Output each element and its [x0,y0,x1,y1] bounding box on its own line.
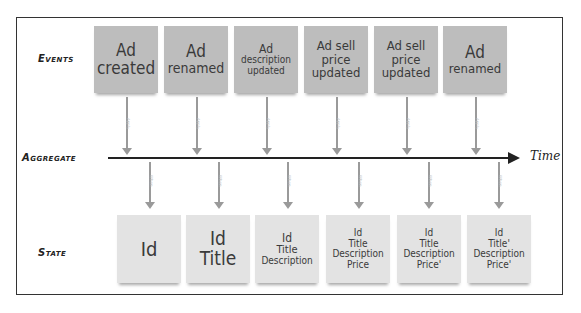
when-label: When [287,175,292,187]
event-line: updated [312,66,361,80]
event-line: Ad [116,42,136,60]
event-line: renamed [449,62,501,76]
when-label: When [358,175,363,187]
event-line: renamed [168,61,224,76]
state-line: Price' [487,260,511,271]
apply-label: Apply [336,118,341,129]
state-note-5: Id Title Description Price' [397,215,461,283]
event-line: Ad [186,43,206,61]
when-label: When [149,175,154,187]
apply-label: Apply [126,118,131,129]
event-line: price [321,53,350,67]
state-line: Id [425,228,433,239]
state-line: Description [332,249,383,260]
when-label: When [428,175,433,187]
state-note-4: Id Title Description Price [326,215,390,283]
row-label-state: State [38,247,66,258]
event-note-ad-renamed-2: Ad renamed [443,26,507,93]
apply-label: Apply [196,118,201,129]
state-line: Description [261,256,312,267]
apply-label: Apply [406,118,411,129]
row-label-events: Events [38,53,74,64]
state-note-6: Id Title' Description Price' [467,215,531,283]
event-line: price [391,53,420,67]
event-line: Ad sell [317,39,356,53]
event-note-ad-description-updated: Ad description updated [234,26,298,93]
event-note-ad-created: Ad created [94,26,158,93]
event-note-ad-sell-price-updated-1: Ad sell price updated [304,26,368,93]
event-line: updated [382,66,431,80]
state-note-1: Id [117,215,181,283]
when-label: When [498,175,503,187]
state-line: Id [141,239,158,260]
apply-label: Apply [475,118,480,129]
state-line: Title [200,249,237,269]
event-line: created [97,60,155,78]
aggregate-timeline [108,157,510,159]
event-note-ad-renamed: Ad renamed [164,26,228,93]
event-line: Ad [465,44,485,62]
event-note-ad-sell-price-updated-2: Ad sell price updated [374,26,438,93]
when-label: When [218,175,223,187]
state-line: Price' [417,260,441,271]
state-note-3: Id Title Description [255,215,319,283]
state-line: Id [210,229,226,249]
state-line: Description [403,249,454,260]
state-line: Price [347,260,369,271]
time-label: Time [530,149,560,163]
state-line: Id [495,228,503,239]
row-label-aggregate: Aggregate [22,152,76,163]
apply-label: Apply [266,118,271,129]
timeline-arrowhead-icon [508,152,520,164]
event-line: updated [247,66,284,77]
state-note-2: Id Title [186,215,250,283]
state-line: Description [473,249,524,260]
event-line: Ad sell [387,39,426,53]
state-line: Id [354,228,362,239]
